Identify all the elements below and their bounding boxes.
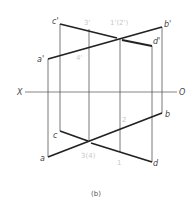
line-c-prime-d-prime-b [122, 40, 152, 46]
label-c: c [53, 131, 58, 140]
label-a: a [40, 154, 45, 163]
line-c-d-a [60, 131, 88, 141]
label-3-4: 3(4) [81, 152, 96, 160]
figure-caption: (b) [91, 190, 101, 198]
projection-diagram: c' b' a' d' 3' 4' 1'(2') X O b c a d 2 3… [0, 0, 195, 206]
label-a-prime: a' [37, 55, 44, 64]
label-1: 1 [117, 159, 121, 167]
axis-label-x: X [16, 88, 23, 97]
label-3-prime: 3' [84, 19, 90, 27]
line-a-prime-b-prime [48, 27, 162, 59]
label-1-2-prime: 1'(2') [110, 19, 128, 27]
label-b: b [165, 110, 170, 119]
label-d-prime: d' [153, 37, 160, 46]
label-d: d [153, 159, 159, 168]
label-2: 2 [122, 116, 126, 124]
label-c-prime: c' [52, 17, 59, 26]
label-4-prime: 4' [76, 54, 82, 62]
line-c-d-b [91, 143, 152, 162]
label-b-prime: b' [164, 20, 171, 29]
line-a-b [48, 113, 162, 157]
axis-label-o: O [179, 88, 185, 97]
